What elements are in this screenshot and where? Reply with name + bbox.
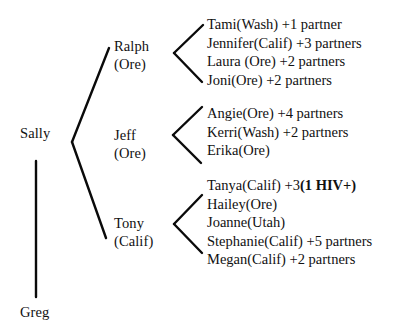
partner-item: Hailey(Ore) [207, 195, 372, 214]
node-jeff-name: Jeff [114, 126, 146, 144]
partner-item: Angie(Ore) +4 partners [207, 104, 348, 123]
partner-text: Tanya(Calif) +3 [207, 177, 300, 193]
partner-item: Laura (Ore) +2 partners [207, 52, 362, 71]
partner-item: Joni(Ore) +2 partners [207, 71, 362, 90]
node-sally: Sally [20, 124, 50, 142]
partner-item: Kerri(Wash) +2 partners [207, 123, 348, 142]
partner-item: Erika(Ore) [207, 141, 348, 160]
hiv-note: (1 HIV+) [300, 177, 356, 193]
partner-item: Joanne(Utah) [207, 213, 372, 232]
node-ralph-location: (Ore) [114, 55, 149, 73]
jeff-fork-top-line [173, 107, 202, 135]
partner-item: Tami(Wash) +1 partner [207, 15, 362, 34]
ralph-partner-list: Tami(Wash) +1 partner Jennifer(Calif) +3… [207, 15, 362, 89]
node-tony-location: (Calif) [114, 232, 153, 250]
partner-item: Jennifer(Calif) +3 partners [207, 34, 362, 53]
ralph-fork-top-line [174, 25, 203, 53]
node-greg: Greg [20, 303, 49, 321]
tony-fork-top-line [174, 195, 202, 224]
fork-to-ralph-line [72, 48, 109, 142]
node-jeff: Jeff (Ore) [114, 126, 146, 162]
tony-partner-list: Tanya(Calif) +3(1 HIV+) Hailey(Ore) Joan… [207, 176, 372, 269]
fork-to-tony-line [72, 142, 106, 238]
node-jeff-location: (Ore) [114, 144, 146, 162]
node-tony-name: Tony [114, 214, 153, 232]
diagram-canvas: Sally Greg Ralph (Ore) Jeff (Ore) Tony (… [0, 0, 408, 333]
partner-item: Stephanie(Calif) +5 partners [207, 232, 372, 251]
partner-item: Megan(Calif) +2 partners [207, 250, 372, 269]
partner-item: Tanya(Calif) +3(1 HIV+) [207, 176, 372, 195]
ralph-fork-bottom-line [174, 53, 202, 82]
jeff-partner-list: Angie(Ore) +4 partners Kerri(Wash) +2 pa… [207, 104, 348, 160]
tony-fork-bottom-line [174, 224, 202, 253]
node-tony: Tony (Calif) [114, 214, 153, 250]
node-ralph-name: Ralph [114, 37, 149, 55]
node-ralph: Ralph (Ore) [114, 37, 149, 73]
jeff-fork-bottom-line [173, 135, 201, 163]
